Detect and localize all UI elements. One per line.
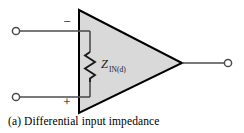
input-terminal-inverting[interactable]	[12, 27, 19, 34]
figure-differential-input-impedance: − + Z IN(d) (a) Differential input imped…	[0, 0, 244, 133]
noninverting-input-sign: +	[63, 94, 70, 109]
impedance-label-subscript: IN(d)	[109, 65, 126, 74]
output-terminal[interactable]	[224, 59, 231, 66]
inverting-input-sign: −	[63, 14, 70, 29]
figure-caption: (a) Differential input impedance	[8, 113, 244, 129]
impedance-label-symbol: Z	[101, 57, 109, 71]
input-terminal-noninverting[interactable]	[12, 93, 19, 100]
